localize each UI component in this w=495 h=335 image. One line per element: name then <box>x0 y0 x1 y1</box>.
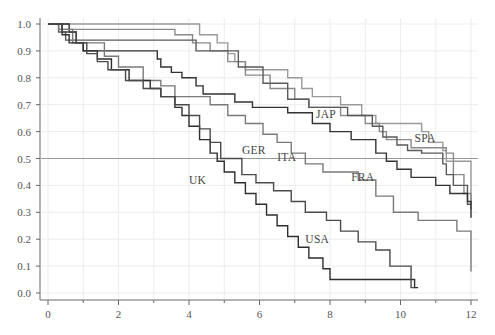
x-axis-ticks: 024681012 <box>45 300 476 320</box>
x-tick-label: 4 <box>186 308 192 320</box>
y-tick-label: 0.0 <box>17 287 31 299</box>
x-tick-label: 12 <box>466 308 477 320</box>
label-ita: ITA <box>277 151 297 163</box>
label-usa: USA <box>305 233 329 245</box>
x-tick-label: 0 <box>45 308 51 320</box>
x-tick-label: 2 <box>116 308 122 320</box>
y-tick-label: 0.9 <box>17 45 31 57</box>
survival-chart: 0.00.10.20.30.40.50.60.70.80.91.0 024681… <box>0 0 495 335</box>
label-fra: FRA <box>351 171 375 183</box>
y-tick-label: 0.4 <box>17 179 31 191</box>
y-tick-label: 1.0 <box>17 18 31 30</box>
x-tick-label: 8 <box>327 308 333 320</box>
curve-usa <box>48 24 415 288</box>
series-labels: JAPSPAITAFRAGERUKUSA <box>189 108 436 245</box>
y-tick-label: 0.5 <box>17 153 31 165</box>
label-ger: GER <box>242 144 266 156</box>
y-tick-label: 0.6 <box>17 126 31 138</box>
x-tick-label: 10 <box>395 308 407 320</box>
y-axis-ticks: 0.00.10.20.30.40.50.60.70.80.91.0 <box>17 18 40 299</box>
y-tick-label: 0.1 <box>17 260 31 272</box>
y-tick-label: 0.7 <box>17 99 31 111</box>
label-uk: UK <box>189 174 207 186</box>
y-tick-label: 0.2 <box>17 233 31 245</box>
label-spa: SPA <box>415 132 436 144</box>
y-tick-label: 0.3 <box>17 206 31 218</box>
curve-uk <box>48 24 418 288</box>
label-jap: JAP <box>316 108 336 120</box>
y-tick-label: 0.8 <box>17 72 31 84</box>
x-tick-label: 6 <box>257 308 263 320</box>
